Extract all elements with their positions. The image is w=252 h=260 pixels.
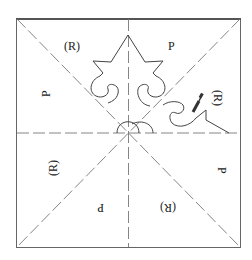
label-top-right-P: P — [168, 39, 175, 53]
label-bottom-left-P: P — [97, 201, 104, 215]
center-scallop — [117, 122, 139, 133]
star-left-arm — [93, 35, 128, 76]
label-left-upper-P: P — [39, 90, 53, 97]
folding-diagram: (R) P P (R) (R) P P (R) — [0, 0, 252, 260]
left-curl — [91, 76, 118, 103]
fold-lines — [17, 19, 240, 247]
right-curl — [138, 76, 165, 106]
scissors-icon — [193, 93, 204, 112]
label-top-left-R: (R) — [64, 39, 80, 53]
label-right-lower-P: P — [215, 167, 229, 174]
cut-pattern — [91, 35, 229, 133]
label-right-upper-R: (R) — [211, 90, 225, 106]
label-bottom-right-R: (R) — [160, 201, 176, 215]
star-right-arm — [128, 35, 163, 76]
label-left-lower-R: (R) — [46, 160, 60, 176]
